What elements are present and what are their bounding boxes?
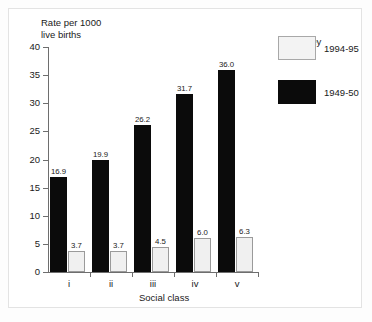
y-tick bbox=[43, 131, 48, 132]
x-tick-label-ii: ii bbox=[91, 278, 131, 289]
bar-iii-1949-50 bbox=[134, 125, 151, 272]
bar-i-1994-95 bbox=[68, 251, 85, 272]
y-tick bbox=[43, 188, 48, 189]
bar-iv-1949-50 bbox=[176, 94, 193, 272]
bar-value-label: 3.7 bbox=[57, 241, 97, 250]
x-axis-title: Social class bbox=[139, 292, 189, 303]
bar-value-label: 19.9 bbox=[81, 150, 121, 159]
y-tick bbox=[43, 160, 48, 161]
x-axis-line bbox=[48, 272, 259, 273]
y-tick-label: 25 bbox=[18, 125, 40, 136]
x-tick-label-i: i bbox=[49, 278, 89, 289]
y-tick bbox=[43, 216, 48, 217]
y-tick-label: 10 bbox=[18, 210, 40, 221]
x-tick bbox=[258, 272, 259, 277]
x-tick bbox=[90, 272, 91, 277]
y-tick-label: 0 bbox=[18, 266, 40, 277]
bar-value-label: 3.7 bbox=[99, 241, 139, 250]
y-axis-title: Rate per 1000 live births bbox=[41, 17, 101, 40]
y-tick bbox=[43, 244, 48, 245]
bar-value-label: 36.0 bbox=[207, 60, 247, 69]
y-axis-line bbox=[48, 47, 49, 273]
y-tick-label: 35 bbox=[18, 69, 40, 80]
bar-iv-1994-95 bbox=[194, 238, 211, 272]
bar-value-label: 6.3 bbox=[225, 227, 265, 236]
bar-value-label: 26.2 bbox=[123, 115, 163, 124]
legend-swatch-1949-50 bbox=[278, 80, 316, 104]
x-tick bbox=[174, 272, 175, 277]
y-tick bbox=[43, 75, 48, 76]
bar-value-label: 6.0 bbox=[183, 228, 223, 237]
bar-value-label: 4.5 bbox=[141, 237, 181, 246]
x-tick bbox=[132, 272, 133, 277]
y-tick-label: 15 bbox=[18, 182, 40, 193]
y-tick-label: 20 bbox=[18, 154, 40, 165]
y-tick bbox=[43, 103, 48, 104]
bar-ii-1994-95 bbox=[110, 251, 127, 272]
y-tick bbox=[43, 272, 48, 273]
x-tick-label-iii: iii bbox=[133, 278, 173, 289]
bar-v-1994-95 bbox=[236, 237, 253, 272]
x-tick-label-iv: iv bbox=[175, 278, 215, 289]
legend-label-1994-95: 1994-95 bbox=[324, 43, 359, 54]
bar-iii-1994-95 bbox=[152, 247, 169, 272]
y-tick-label: 30 bbox=[18, 97, 40, 108]
chart-figure: Rate per 1000 live births 05101520253035… bbox=[0, 0, 372, 322]
legend-label-1949-50: 1949-50 bbox=[324, 87, 359, 98]
x-tick bbox=[216, 272, 217, 277]
bar-value-label: 16.9 bbox=[39, 167, 79, 176]
bar-v-1949-50 bbox=[218, 70, 235, 273]
x-tick-label-v: v bbox=[217, 278, 257, 289]
legend-swatch-1994-95 bbox=[278, 36, 316, 60]
bar-value-label: 31.7 bbox=[165, 84, 205, 93]
y-tick-label: 5 bbox=[18, 238, 40, 249]
bar-ii-1949-50 bbox=[92, 160, 109, 272]
y-tick-label: 40 bbox=[18, 41, 40, 52]
bar-i-1949-50 bbox=[50, 177, 67, 272]
y-tick bbox=[43, 47, 48, 48]
